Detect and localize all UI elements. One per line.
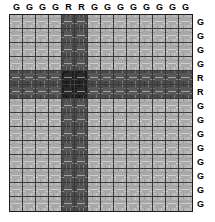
cell-inner-block <box>90 115 98 123</box>
cell-inner-block <box>168 185 176 193</box>
cell-inner-block <box>38 171 46 179</box>
cell-inner-block <box>12 185 20 193</box>
cell-inner-block <box>155 143 163 151</box>
matrix-cell-r5-c2 <box>36 85 49 99</box>
cell-inner-block <box>116 129 124 137</box>
matrix-cell-r3-c7 <box>101 57 114 71</box>
cell-inner-block <box>116 171 124 179</box>
cell-inner-highlight <box>103 175 111 176</box>
cell-inner-highlight <box>103 133 111 134</box>
matrix-cell-r4-c1 <box>23 71 36 85</box>
cell-inner-block <box>90 157 98 165</box>
matrix-cell-r4-c4 <box>62 71 75 85</box>
cell-inner-block <box>51 101 59 109</box>
cell-inner-block <box>51 157 59 165</box>
cell-inner-highlight <box>51 105 59 106</box>
cell-inner-block <box>155 185 163 193</box>
cell-inner-block <box>12 143 20 151</box>
cell-inner-block <box>12 115 20 123</box>
cell-inner-block <box>142 157 150 165</box>
matrix-cell-r10-c1 <box>23 155 36 169</box>
cell-inner-highlight <box>25 147 33 148</box>
matrix-cell-r6-c7 <box>101 99 114 113</box>
matrix-cell-r4-c6 <box>88 71 101 85</box>
cell-inner-highlight <box>103 63 111 64</box>
cell-inner-block <box>142 143 150 151</box>
cell-inner-block <box>129 115 137 123</box>
cell-inner-highlight <box>103 49 111 50</box>
cell-inner-block <box>51 59 59 67</box>
matrix-cell-r1-c9 <box>127 29 140 43</box>
matrix-cell-r4-c0 <box>10 71 23 85</box>
matrix-cell-r7-c11 <box>153 113 166 127</box>
cell-inner-block <box>38 101 46 109</box>
matrix-cell-r13-c6 <box>88 197 101 211</box>
matrix-cell-r10-c5 <box>75 155 88 169</box>
cell-inner-highlight <box>77 147 85 148</box>
cell-inner-block <box>103 101 111 109</box>
cell-inner-block <box>142 129 150 137</box>
cell-inner-block <box>155 200 163 208</box>
cell-inner-block <box>129 73 137 81</box>
cell-inner-highlight <box>155 133 163 134</box>
cell-inner-block <box>103 31 111 39</box>
matrix-cell-r8-c1 <box>23 127 36 141</box>
cell-inner-highlight <box>64 63 72 64</box>
matrix-cell-r13-c4 <box>62 197 75 211</box>
cell-inner-highlight <box>103 147 111 148</box>
cell-inner-block <box>77 129 85 137</box>
matrix-cell-r5-c0 <box>10 85 23 99</box>
matrix-cell-r10-c6 <box>88 155 101 169</box>
matrix-cell-r3-c9 <box>127 57 140 71</box>
cell-inner-block <box>25 171 33 179</box>
cell-inner-highlight <box>129 49 137 50</box>
cell-inner-highlight <box>64 133 72 134</box>
cell-inner-block <box>168 157 176 165</box>
column-label-6: G <box>88 1 101 14</box>
column-label-7: G <box>101 1 114 14</box>
cell-inner-block <box>129 17 137 25</box>
column-label-row: GGGGRRGGGGGGGG <box>10 1 192 14</box>
matrix-cell-r3-c3 <box>49 57 62 71</box>
cell-inner-highlight <box>64 119 72 120</box>
matrix-cell-r13-c5 <box>75 197 88 211</box>
matrix-cell-r9-c1 <box>23 141 36 155</box>
matrix-cell-r8-c9 <box>127 127 140 141</box>
cell-inner-highlight <box>155 189 163 190</box>
cell-inner-block <box>142 115 150 123</box>
column-label-9: G <box>127 1 140 14</box>
matrix-cell-r12-c2 <box>36 183 49 197</box>
cell-inner-block <box>77 115 85 123</box>
cell-inner-highlight <box>90 21 98 22</box>
matrix-cell-r3-c12 <box>166 57 179 71</box>
cell-inner-highlight <box>12 63 20 64</box>
matrix-cell-r6-c8 <box>114 99 127 113</box>
cell-inner-highlight <box>116 21 124 22</box>
row-label-4: R <box>195 71 213 85</box>
matrix-cell-r5-c11 <box>153 85 166 99</box>
matrix-cell-r3-c1 <box>23 57 36 71</box>
matrix-cell-r4-c9 <box>127 71 140 85</box>
cell-inner-highlight <box>25 161 33 162</box>
matrix-cell-r8-c0 <box>10 127 23 141</box>
cell-inner-highlight <box>77 161 85 162</box>
cell-inner-highlight <box>12 161 20 162</box>
cell-inner-block <box>12 59 20 67</box>
cell-inner-block <box>142 31 150 39</box>
cell-inner-highlight <box>155 91 163 92</box>
cell-inner-block <box>116 31 124 39</box>
cell-inner-block <box>12 87 20 95</box>
matrix-cell-r2-c9 <box>127 43 140 57</box>
matrix-cell-r4-c5 <box>75 71 88 85</box>
cell-inner-block <box>38 200 46 208</box>
matrix-cell-r10-c11 <box>153 155 166 169</box>
matrix-cell-r13-c0 <box>10 197 23 211</box>
matrix-cell-r2-c8 <box>114 43 127 57</box>
cell-inner-highlight <box>64 189 72 190</box>
cell-inner-highlight <box>142 175 150 176</box>
cell-inner-highlight <box>168 203 176 204</box>
cell-inner-highlight <box>64 21 72 22</box>
cell-inner-block <box>25 87 33 95</box>
cell-inner-block <box>12 101 20 109</box>
cell-inner-block <box>90 129 98 137</box>
